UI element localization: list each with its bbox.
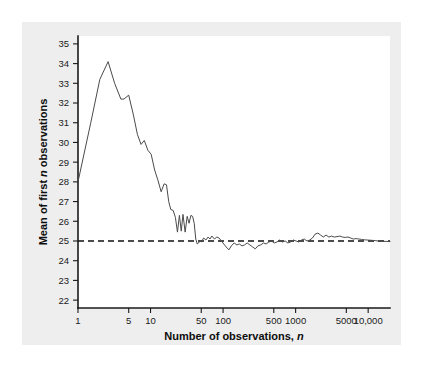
y-axis-title: Mean of firstnobservations [37,99,49,246]
y-tick-label: 31 [58,117,69,128]
x-tick-label: 500 [266,315,282,326]
y-tick-label: 33 [58,78,69,89]
x-tick-label: 50 [196,315,207,326]
y-tick-label: 24 [58,255,69,266]
y-tick-label: 32 [58,97,69,108]
x-axis-title: Number of observations,n [164,330,304,342]
y-tick-label: 28 [58,176,69,187]
figure-container: 2223242526272829303132333435 15105010050… [0,0,422,366]
y-tick-label: 35 [58,38,69,49]
x-tick-label: 1000 [285,315,306,326]
y-tick-label: 25 [58,235,69,246]
y-tick-label: 30 [58,137,69,148]
x-axis-tick-labels: 1510501005001000500010,000 [75,315,382,326]
x-tick-label: 10,000 [354,315,383,326]
x-tick-label: 5 [126,315,131,326]
y-tick-label: 34 [58,58,69,69]
y-axis-tick-labels: 2223242526272829303132333435 [58,38,69,305]
x-tick-label: 100 [215,315,231,326]
y-tick-label: 27 [58,196,69,207]
y-tick-label: 26 [58,216,69,227]
chart-canvas: 2223242526272829303132333435 15105010050… [0,0,422,366]
plot-area-background [78,36,390,308]
y-tick-label: 23 [58,275,69,286]
x-tick-label: 1 [75,315,80,326]
x-tick-label: 10 [145,315,156,326]
y-tick-label: 29 [58,157,69,168]
y-tick-label: 22 [58,295,69,306]
